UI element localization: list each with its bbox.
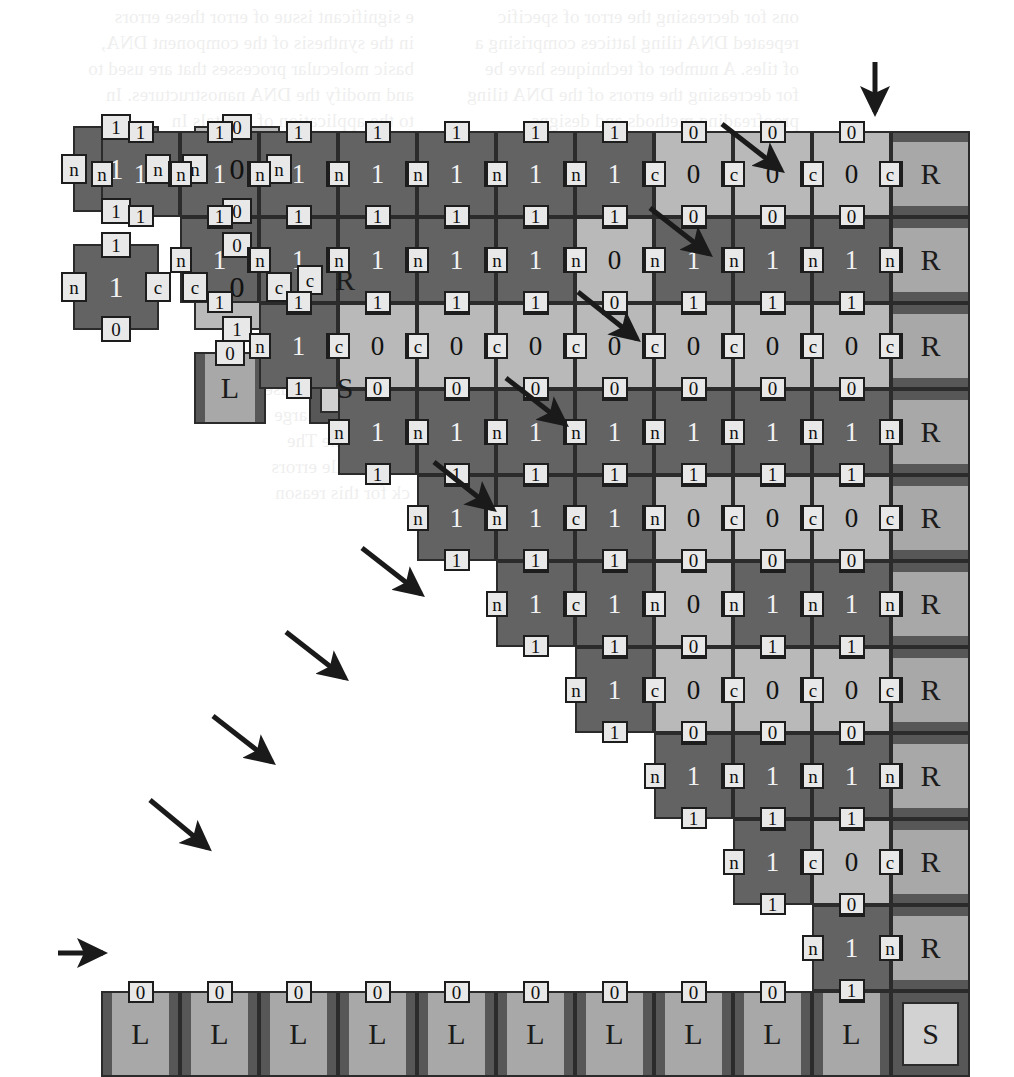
arrow-row-7 <box>578 292 637 339</box>
arrow-row-1 <box>150 800 208 848</box>
arrow-row-3 <box>286 632 345 678</box>
arrow-row-2 <box>213 716 272 762</box>
arrow-row-9 <box>722 124 781 170</box>
arrow-row-8 <box>650 208 709 254</box>
arrow-row-5 <box>434 462 493 509</box>
arrow-row-6 <box>506 378 565 424</box>
arrow-row-4 <box>362 548 421 594</box>
